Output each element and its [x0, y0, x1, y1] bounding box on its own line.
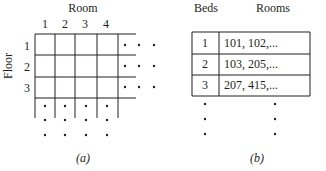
room-axis-title: Room [68, 1, 98, 15]
rooms-cell: 101, 102,... [224, 36, 278, 50]
floor-label-2: 2 [24, 60, 30, 74]
room-label-3: 3 [82, 17, 88, 31]
caption-a: (a) [76, 151, 90, 165]
rooms-cell: 103, 205,... [224, 57, 278, 71]
panel-b-table: Beds Rooms 1 101, 102,... 2 103, 205,...… [192, 1, 310, 165]
rooms-header: Rooms [256, 1, 290, 15]
column-continuation-dots [44, 105, 108, 136]
beds-cell: 2 [202, 57, 208, 71]
table-row: 1 101, 102,... [202, 36, 278, 50]
table-continuation-dots [204, 103, 276, 135]
floor-label-3: 3 [24, 81, 30, 95]
row-continuation-dots [124, 44, 155, 88]
panel-a-grid: Room 1 2 3 4 Floor 1 2 3 (a) [1, 1, 155, 165]
rooms-cell: 207, 415,... [224, 78, 278, 92]
diagram-canvas: Room 1 2 3 4 Floor 1 2 3 (a) [0, 0, 326, 171]
floor-axis-title: Floor [1, 53, 15, 79]
caption-b: (b) [250, 151, 264, 165]
room-label-2: 2 [62, 17, 68, 31]
table-row: 2 103, 205,... [202, 57, 278, 71]
beds-header: Beds [194, 1, 218, 15]
table-row: 3 207, 415,... [202, 78, 278, 92]
room-label-1: 1 [42, 17, 48, 31]
beds-cell: 3 [202, 78, 208, 92]
beds-cell: 1 [202, 36, 208, 50]
floor-label-1: 1 [24, 39, 30, 53]
room-label-4: 4 [103, 17, 109, 31]
